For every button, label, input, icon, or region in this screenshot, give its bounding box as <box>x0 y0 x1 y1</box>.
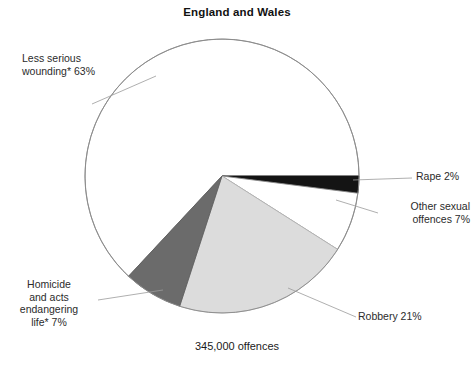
slice-label-homicide: Homicide and acts endangering life* 7% <box>8 278 90 328</box>
leader-line-robbery <box>288 288 356 317</box>
pie-chart-figure: England and Wales Less serious wounding*… <box>0 0 474 367</box>
slice-label-less-serious-wounding: Less serious wounding* 63% <box>22 52 134 77</box>
chart-total-caption: 345,000 offences <box>0 340 474 352</box>
slice-label-rape: Rape 2% <box>416 170 472 183</box>
slice-label-other-sexual-offences: Other sexual offences 7% <box>366 200 470 225</box>
leader-line-rape <box>353 178 412 180</box>
slice-label-robbery: Robbery 21% <box>358 310 470 323</box>
